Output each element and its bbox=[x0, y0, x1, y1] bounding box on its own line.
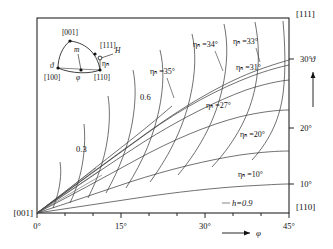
inset-label-001: [001] bbox=[62, 28, 78, 37]
inset-label-110: [110] bbox=[94, 73, 110, 82]
corner-label-111: [111] bbox=[296, 9, 315, 19]
inset-label-H: H bbox=[114, 46, 121, 55]
x-axis-symbol-group: φ bbox=[222, 228, 261, 238]
eta-label-10-group: ηₕ =10° bbox=[238, 170, 263, 179]
eta-label-27-group: ηₕ =27° bbox=[206, 101, 231, 110]
y-axis-ticks bbox=[289, 59, 294, 184]
chart-svg: 0° 15° 30° 45° 10° 20° 30° [001] [110] [… bbox=[0, 0, 333, 249]
figure-root: 0° 15° 30° 45° 10° 20° 30° [001] [110] [… bbox=[0, 0, 333, 249]
inset-label-111: [111] bbox=[100, 41, 116, 50]
inset-label-eta-h: ηₕ bbox=[102, 59, 109, 68]
corner-label-110: [110] bbox=[296, 202, 315, 212]
y-axis-symbol-group: ϑ bbox=[311, 54, 316, 107]
xtick-label-45: 45° bbox=[283, 221, 295, 231]
eta-label-20: ηₕ =20° bbox=[240, 130, 265, 139]
y-axis-symbol: ϑ bbox=[311, 54, 316, 64]
inset-label-m: m bbox=[74, 45, 80, 54]
xtick-label-30: 30° bbox=[199, 221, 211, 231]
eta-label-35: ηₕ =35° bbox=[150, 67, 175, 76]
h-label-03: 0.3 bbox=[76, 144, 87, 154]
eta-label-31-group: ηₕ =31° bbox=[236, 63, 261, 72]
ytick-label-20: 20° bbox=[300, 123, 312, 133]
x-axis-ticks bbox=[37, 213, 289, 218]
eta-label-33: ηₕ =33° bbox=[233, 37, 258, 46]
inset-dot-100 bbox=[56, 66, 59, 69]
inset-dot-001 bbox=[68, 39, 71, 42]
xtick-label-15: 15° bbox=[115, 221, 127, 231]
corner-label-001: [001] bbox=[14, 208, 34, 218]
inset-label-phi: φ bbox=[76, 73, 80, 82]
eta-label-31: ηₕ =31° bbox=[236, 63, 261, 72]
y-axis-arrow-head bbox=[311, 72, 316, 78]
x-axis-symbol: φ bbox=[256, 228, 261, 238]
x-axis-arrow-head bbox=[244, 231, 250, 236]
h-label-06: 0.6 bbox=[140, 92, 151, 102]
eta-label-34: ηₕ =34° bbox=[193, 40, 218, 49]
h-label-09: h=0.9 bbox=[232, 198, 253, 208]
eta-label-20-group: ηₕ =20° bbox=[240, 130, 265, 139]
xtick-label-0: 0° bbox=[33, 221, 41, 231]
eta-label-27: ηₕ =27° bbox=[206, 101, 231, 110]
inset-label-100: [100] bbox=[44, 73, 60, 82]
eta-label-10: ηₕ =10° bbox=[238, 170, 263, 179]
ytick-label-10: 10° bbox=[300, 179, 312, 189]
inset-dot-110 bbox=[98, 68, 101, 71]
inset-dot-m bbox=[79, 68, 82, 71]
inset-dot-111 bbox=[93, 52, 96, 55]
